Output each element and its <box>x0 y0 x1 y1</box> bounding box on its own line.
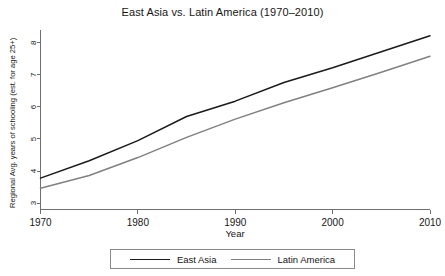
y-axis-title: Regional Avg. years of schooling (est. f… <box>8 37 17 208</box>
legend-item-east-asia[interactable]: East Asia <box>130 250 217 268</box>
series-line-east-asia <box>41 36 431 178</box>
plot-canvas: 345678 19701980199020002010 Regional Avg… <box>0 0 445 276</box>
y-tick-label: 6 <box>29 104 38 109</box>
y-tick-label: 8 <box>29 40 38 45</box>
x-tick-label: 2000 <box>322 217 345 228</box>
series-line-latin-america <box>41 56 431 188</box>
series-lines <box>41 36 431 189</box>
x-tick-label: 1980 <box>127 217 150 228</box>
chart-legend: East AsiaLatin America <box>110 249 355 269</box>
x-axis-title: Year <box>225 228 244 239</box>
x-tick-label: 1970 <box>29 217 52 228</box>
x-tick-label: 1990 <box>224 217 247 228</box>
legend-item-latin-america[interactable]: Latin America <box>231 250 336 268</box>
y-tick-label: 7 <box>29 72 38 77</box>
legend-item-label: East Asia <box>177 254 217 265</box>
x-axis-ticks: 19701980199020002010 <box>29 210 441 228</box>
y-tick-label: 4 <box>29 168 38 173</box>
y-tick-label: 3 <box>29 200 38 205</box>
x-tick-label: 2010 <box>419 217 442 228</box>
legend-line-swatch <box>130 259 170 260</box>
y-axis-ticks: 345678 <box>29 40 41 205</box>
y-tick-label: 5 <box>29 136 38 141</box>
legend-item-label: Latin America <box>278 254 336 265</box>
chart-figure: East Asia vs. Latin America (1970–2010) … <box>0 0 445 276</box>
legend-line-swatch <box>231 259 271 260</box>
